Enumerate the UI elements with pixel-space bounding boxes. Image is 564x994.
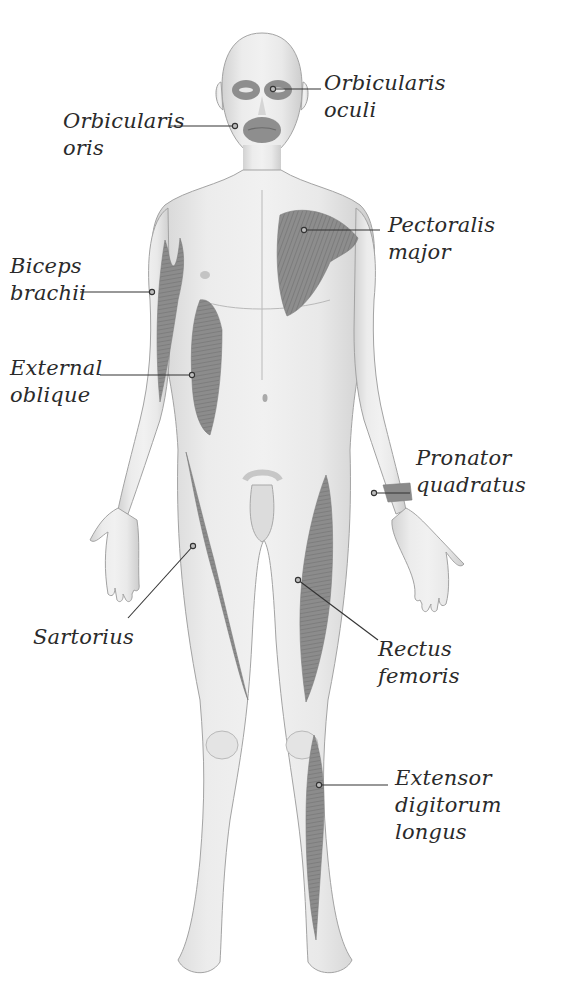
hand-right (392, 508, 464, 612)
label-pronator-quadratus: Pronator quadratus (416, 445, 526, 499)
label-biceps-brachii: Biceps brachii (10, 253, 86, 307)
label-extensor-digitorum-longus: Extensor digitorum longus (395, 765, 502, 846)
label-line: oculi (324, 97, 446, 124)
label-line: Pronator (416, 445, 526, 472)
label-line: Sartorius (33, 624, 134, 651)
label-external-oblique: External oblique (10, 355, 102, 409)
label-line: quadratus (416, 472, 526, 499)
label-orbicularis-oris: Orbicularis oris (63, 108, 185, 162)
label-line: Pectoralis (388, 212, 495, 239)
label-sartorius: Sartorius (33, 624, 134, 651)
label-rectus-femoris: Rectus femoris (378, 636, 460, 690)
label-line: longus (395, 819, 502, 846)
label-line: digitorum (395, 792, 502, 819)
label-line: brachii (10, 280, 86, 307)
hand-left (90, 508, 139, 602)
label-line: oris (63, 135, 185, 162)
label-line: Biceps (10, 253, 86, 280)
label-line: Orbicularis (324, 70, 446, 97)
label-orbicularis-oculi: Orbicularis oculi (324, 70, 446, 124)
label-line: Rectus (378, 636, 460, 663)
label-line: Orbicularis (63, 108, 185, 135)
label-pectoralis-major: Pectoralis major (388, 212, 495, 266)
label-line: major (388, 239, 495, 266)
label-line: External (10, 355, 102, 382)
label-line: femoris (378, 663, 460, 690)
torso (151, 170, 374, 973)
label-line: Extensor (395, 765, 502, 792)
label-line: oblique (10, 382, 102, 409)
